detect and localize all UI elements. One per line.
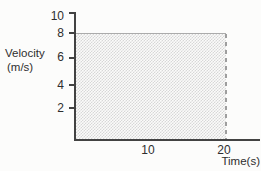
y-axis-title-name: Velocity bbox=[5, 47, 45, 59]
y-tick-label-10: 10 bbox=[34, 9, 64, 23]
shaded-area-region bbox=[76, 33, 226, 140]
y-tick-label-2: 2 bbox=[34, 101, 64, 115]
y-axis-title-unit: (m/s) bbox=[5, 61, 45, 75]
x-tick-label-10: 10 bbox=[138, 144, 158, 157]
y-tick-label-8: 8 bbox=[34, 26, 64, 40]
x-axis-line bbox=[74, 139, 260, 141]
y-tick-2 bbox=[69, 107, 75, 109]
y-tick-label-4: 4 bbox=[34, 78, 64, 92]
y-axis-title: Velocity (m/s) bbox=[5, 47, 45, 74]
y-tick-8 bbox=[69, 32, 75, 34]
y-tick-6 bbox=[69, 57, 75, 59]
y-tick-4 bbox=[69, 84, 75, 86]
y-tick-10 bbox=[69, 12, 75, 14]
x-axis-title: Time(s) bbox=[221, 155, 260, 168]
velocity-time-graph: 10 8 6 4 2 10 20 Velocity (m/s) Time(s) bbox=[0, 0, 261, 171]
dashed-line-20s bbox=[225, 34, 227, 139]
